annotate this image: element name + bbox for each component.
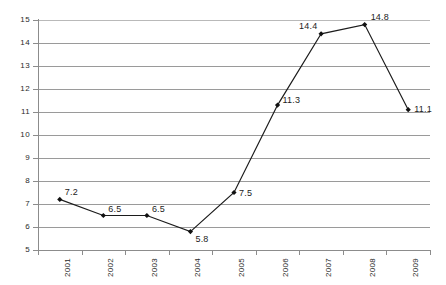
data-point-label: 7.2: [65, 188, 78, 197]
x-axis-tick-mark: [212, 250, 213, 255]
data-point-marker: [144, 213, 149, 218]
x-axis-tick-label: 2005: [238, 258, 246, 277]
x-axis-tick-mark: [430, 250, 431, 255]
y-axis-tick-mark: [33, 112, 38, 113]
x-axis-tick-label: 2001: [64, 258, 72, 277]
data-point-label: 7.5: [239, 189, 252, 198]
y-axis-tick-label: 7: [4, 200, 30, 208]
data-point-marker: [319, 31, 324, 36]
y-axis-tick-label: 13: [4, 62, 30, 70]
y-axis-tick-label: 8: [4, 177, 30, 185]
data-point-marker: [406, 107, 411, 112]
x-axis-tick-label: 2007: [325, 258, 333, 277]
x-axis-tick-label: 2004: [194, 258, 202, 277]
data-point-marker: [57, 197, 62, 202]
x-axis-tick-mark: [386, 250, 387, 255]
x-axis-tick-mark: [299, 250, 300, 255]
data-point-label: 14.8: [371, 13, 389, 22]
data-point-label: 6.5: [108, 205, 121, 214]
data-point-marker: [275, 103, 280, 108]
y-axis-tick-mark: [33, 227, 38, 228]
series-markers: [57, 22, 411, 234]
y-axis-tick-label: 5: [4, 246, 30, 254]
x-axis-tick-label: 2002: [107, 258, 115, 277]
y-axis-tick-label: 10: [4, 131, 30, 139]
x-axis-tick-mark: [82, 250, 83, 255]
line-chart: 1514131211109876520012002200320042005200…: [0, 0, 446, 285]
y-axis-tick-mark: [33, 20, 38, 21]
data-point-marker: [101, 213, 106, 218]
y-axis-tick-label: 12: [4, 85, 30, 93]
y-axis-tick-label: 11: [4, 108, 30, 116]
x-axis-tick-mark: [38, 250, 39, 255]
x-axis-tick-label: 2008: [369, 258, 377, 277]
data-point-label: 14.4: [299, 22, 317, 31]
y-axis-tick-label: 6: [4, 223, 30, 231]
data-point-label: 11.1: [414, 105, 432, 114]
data-series-layer: [0, 0, 446, 285]
x-axis-tick-label: 2003: [151, 258, 159, 277]
y-axis-tick-mark: [33, 66, 38, 67]
y-axis-tick-mark: [33, 204, 38, 205]
x-axis-tick-mark: [343, 250, 344, 255]
y-axis-tick-label: 14: [4, 39, 30, 47]
x-axis-tick-label: 2009: [412, 258, 420, 277]
y-axis-tick-mark: [33, 158, 38, 159]
x-axis-tick-mark: [169, 250, 170, 255]
data-point-label: 5.8: [195, 235, 208, 244]
x-axis-tick-mark: [125, 250, 126, 255]
y-axis-tick-label: 9: [4, 154, 30, 162]
y-axis-tick-mark: [33, 135, 38, 136]
y-axis-tick-mark: [33, 89, 38, 90]
data-point-marker: [362, 22, 367, 27]
y-axis-tick-mark: [33, 43, 38, 44]
x-axis-tick-label: 2006: [282, 258, 290, 277]
data-point-label: 6.5: [152, 205, 165, 214]
x-axis-tick-mark: [256, 250, 257, 255]
series-polyline: [60, 25, 408, 232]
data-point-label: 11.3: [283, 96, 301, 105]
y-axis-tick-mark: [33, 181, 38, 182]
y-axis-tick-label: 15: [4, 16, 30, 24]
